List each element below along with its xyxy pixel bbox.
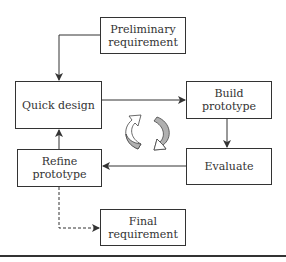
node-label-line: Preliminary — [108, 23, 178, 36]
node-label-line: Refine — [32, 155, 86, 168]
node-label: Quick design — [22, 99, 95, 112]
node-label-line: requirement — [108, 228, 178, 241]
node-build-prototype: Build prototype — [186, 81, 272, 119]
node-label-line: Final — [108, 215, 178, 228]
node-label-line: prototype — [202, 100, 256, 113]
prototyping-diagram: Preliminary requirement Quick design Bui… — [0, 0, 286, 262]
node-quick-design: Quick design — [15, 81, 102, 129]
edge-refine-to-final — [59, 187, 99, 228]
node-label: Evaluate — [205, 160, 254, 173]
node-label-line: prototype — [32, 168, 86, 181]
node-label-line: requirement — [108, 36, 178, 49]
bottom-divider — [0, 255, 286, 257]
node-refine-prototype: Refine prototype — [17, 149, 102, 187]
edge-preliminary-to-quick-design — [59, 35, 100, 80]
cycle-arrows-icon — [126, 115, 170, 150]
node-evaluate: Evaluate — [186, 148, 272, 185]
node-final-requirement: Final requirement — [100, 209, 186, 246]
node-preliminary-requirement: Preliminary requirement — [100, 17, 186, 54]
node-label-line: Build — [202, 87, 256, 100]
